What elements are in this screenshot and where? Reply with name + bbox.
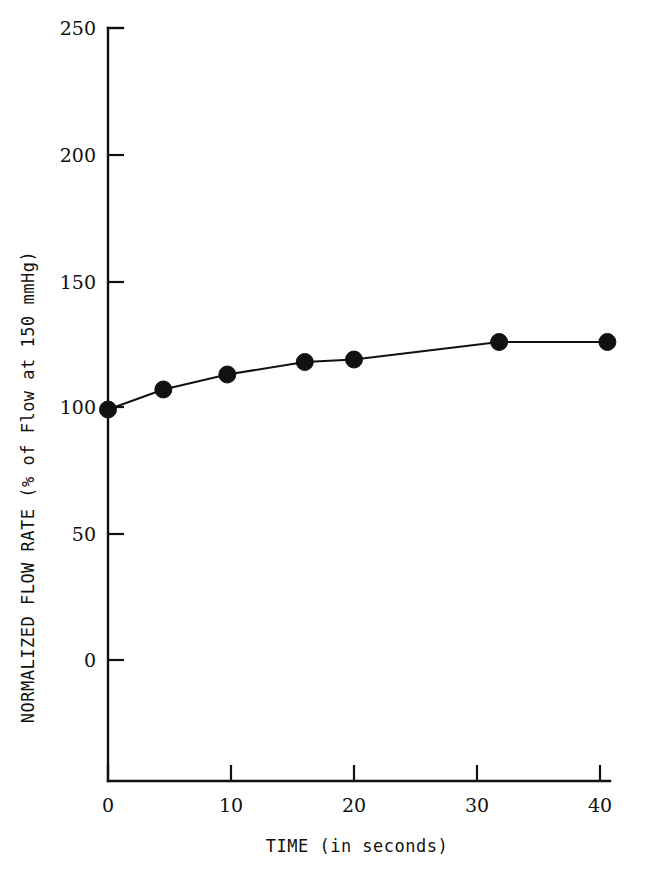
data-point [491,334,508,351]
data-point [155,381,172,398]
x-axis-title: TIME (in seconds) [266,836,449,856]
data-point [219,366,236,383]
y-tick-label-150: 150 [60,271,96,293]
line-chart: 250 200 150 100 50 0 0 10 20 30 40 TIME … [0,0,653,871]
x-tick-label-10: 10 [219,794,243,816]
data-series-markers [100,334,616,419]
y-tick-label-200: 200 [60,144,96,166]
y-tick-label-50: 50 [72,523,96,545]
data-point [100,401,117,418]
chart-page: 250 200 150 100 50 0 0 10 20 30 40 TIME … [0,0,653,871]
x-tick-label-40: 40 [588,794,612,816]
x-tick-label-30: 30 [465,794,489,816]
data-series [100,334,616,419]
x-tick-label-20: 20 [342,794,366,816]
y-tick-label-250: 250 [60,17,96,39]
data-point [599,334,616,351]
data-point [296,354,313,371]
y-axis-title: NORMALIZED FLOW RATE (% of Flow at 150 m… [18,251,38,723]
y-tick-label-0: 0 [84,649,96,671]
y-tick-label-100: 100 [60,396,96,418]
data-point [346,351,363,368]
x-tick-label-0: 0 [102,794,114,816]
